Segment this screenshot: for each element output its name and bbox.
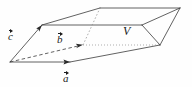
parallelepiped-figure: c b a V xyxy=(0,0,192,87)
figure-background xyxy=(0,0,192,87)
vector-b-glyph: b xyxy=(57,34,63,45)
vector-c-glyph: c xyxy=(8,31,13,42)
vector-b-arrow-accent xyxy=(57,31,63,35)
vector-c-arrow-accent xyxy=(8,28,13,32)
volume-label: V xyxy=(123,25,130,37)
vector-a-arrow-accent xyxy=(63,70,69,74)
vector-a-label: a xyxy=(63,70,69,84)
vector-a-glyph: a xyxy=(63,73,69,84)
vector-c-label: c xyxy=(8,28,13,42)
parallelepiped-svg xyxy=(0,0,192,87)
vector-b-label: b xyxy=(57,31,63,45)
